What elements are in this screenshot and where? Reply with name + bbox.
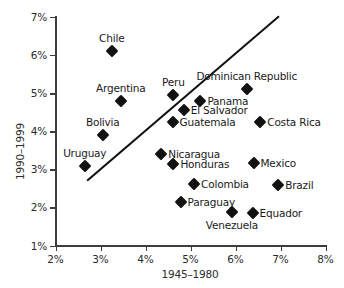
data-point-label: Bolivia [86,117,120,128]
data-point-label: Guatemala [180,116,236,127]
scatter-chart: 2%3%4%5%6%7%8% 1%2%3%4%5%6%7% ChileArgen… [0,0,344,288]
data-point-label: Peru [162,77,185,88]
data-point-label: Equador [260,208,302,219]
data-point-label: Venezuela [206,220,258,231]
data-point-label: Dominican Republic [196,71,297,82]
data-point-label: Mexico [261,158,296,169]
x-axis-title: 1945–1980 [162,268,219,280]
data-point-label: Colombia [201,179,249,190]
data-point-label: Chile [99,33,124,44]
data-point-label: Costa Rica [267,116,321,127]
y-axis-title: 1990–1999 [14,123,26,180]
data-point-label: Argentina [96,83,145,94]
data-point-label: Uruguay [63,147,106,158]
data-point-label: El Salvador [191,105,248,116]
data-point-label: Honduras [180,159,229,170]
data-point-label: Paraguay [188,197,235,208]
trend-line [0,0,344,288]
data-point-label: Brazil [285,180,313,191]
